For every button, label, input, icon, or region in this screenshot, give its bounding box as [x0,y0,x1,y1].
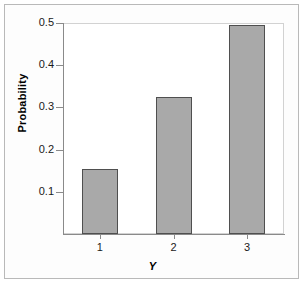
y-axis-tick [56,192,63,193]
y-axis-tick [56,65,63,66]
y-axis-tick-label: 0.4 [8,59,54,70]
x-axis-tick-label: 3 [227,241,267,253]
y-axis-tick-label: 0.3 [8,101,54,112]
y-axis-tick [56,107,63,108]
chart-figure: 0.10.20.30.40.5 Probability 123 Y [4,4,299,279]
y-axis-tick [56,23,63,24]
x-axis-tick-label: 2 [154,241,194,253]
x-axis-tick [174,235,175,239]
y-axis-line [63,23,64,235]
x-axis-tick-label: 1 [80,241,120,253]
bar [82,169,118,234]
x-axis-title: Y [5,260,300,272]
bar [156,97,192,234]
y-axis-tick-label: 0.5 [8,17,54,28]
bar [229,25,265,234]
x-axis-tick [100,235,101,239]
y-axis-tick-label: 0.1 [8,186,54,197]
y-axis-tick-group: 0.10.20.30.40.5 [5,5,54,276]
y-axis-title: Probability [16,48,28,158]
y-axis-tick [56,150,63,151]
y-axis-tick-label: 0.2 [8,144,54,155]
x-axis-tick [247,235,248,239]
